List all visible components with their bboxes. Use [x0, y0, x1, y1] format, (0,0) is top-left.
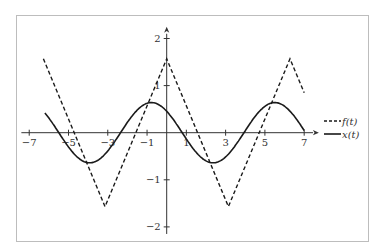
y-tick-label: −1: [146, 174, 161, 185]
x-tick-label: 7: [301, 137, 307, 148]
x-tick-label: −7: [22, 137, 37, 148]
x-tick-label: −3: [100, 137, 115, 148]
legend-label: f(t): [341, 116, 358, 127]
chart-frame: [17, 16, 369, 242]
y-tick-label: −2: [146, 221, 161, 232]
legend-label: x(t): [342, 129, 360, 140]
x-tick-label: 3: [222, 137, 228, 148]
x-tick-label: −1: [140, 137, 155, 148]
x-tick-label: 5: [262, 137, 268, 148]
chart: −7−5−3−1135721−1−2 f(t)x(t): [0, 0, 385, 252]
y-tick-label: 2: [154, 33, 160, 44]
